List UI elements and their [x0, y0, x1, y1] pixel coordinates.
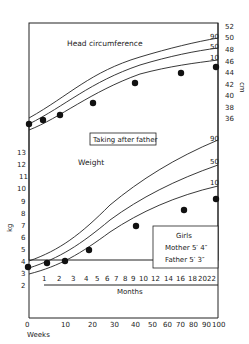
svg-text:40: 40: [131, 321, 140, 329]
head-centile-10: [29, 60, 218, 130]
weight-50-label: 50: [210, 158, 219, 166]
cm-ticks: 52 50 48 46 44 42 40 38 36: [225, 23, 234, 123]
svg-text:50: 50: [148, 321, 157, 329]
svg-text:10: 10: [17, 185, 26, 193]
svg-text:6: 6: [105, 275, 110, 283]
head-title: Head circumference: [67, 39, 143, 48]
svg-text:7: 7: [114, 275, 118, 283]
svg-text:12: 12: [151, 275, 160, 283]
svg-text:52: 52: [225, 23, 234, 31]
svg-text:90: 90: [202, 321, 211, 329]
svg-text:4: 4: [84, 275, 89, 283]
svg-text:8: 8: [21, 210, 25, 218]
svg-text:36: 36: [225, 115, 234, 123]
svg-text:1: 1: [42, 275, 46, 283]
legend-title: Girls: [176, 232, 192, 240]
svg-text:4: 4: [21, 258, 26, 266]
svg-text:50: 50: [225, 34, 234, 42]
weight-90-label: 90: [210, 135, 219, 143]
svg-text:38: 38: [225, 104, 234, 112]
head-centile-50: [29, 48, 218, 124]
svg-text:11: 11: [19, 173, 28, 181]
svg-text:9: 9: [21, 198, 25, 206]
week-ticks: 0 10 20 30 40 50 60 70 80 90 100: [25, 321, 225, 329]
svg-text:20: 20: [198, 275, 207, 283]
annotation-text: Taking after father: [92, 136, 158, 144]
svg-text:3: 3: [21, 270, 25, 278]
weight-10-label: 10: [210, 179, 219, 187]
head-centile-90: [29, 38, 218, 118]
svg-text:6: 6: [21, 234, 26, 242]
legend-father: Father 5′ 3″: [165, 256, 205, 264]
growth-chart: Head circumference 52 50 48 46 44 42 40 …: [0, 0, 249, 344]
svg-text:2: 2: [57, 275, 61, 283]
svg-text:14: 14: [164, 275, 173, 283]
head-90-label: 90: [210, 33, 219, 41]
svg-text:48: 48: [225, 46, 234, 54]
head-50-label: 50: [210, 43, 219, 51]
svg-text:12: 12: [17, 161, 26, 169]
weeks-label: Weeks: [27, 331, 50, 339]
weight-title: Weight: [78, 158, 104, 167]
cm-unit: cm: [238, 82, 246, 93]
svg-text:60: 60: [163, 321, 172, 329]
svg-text:40: 40: [225, 92, 234, 100]
svg-text:2: 2: [21, 282, 25, 290]
svg-text:13: 13: [17, 149, 26, 157]
svg-text:16: 16: [176, 275, 185, 283]
svg-text:8: 8: [123, 275, 127, 283]
svg-text:9: 9: [131, 275, 135, 283]
svg-text:44: 44: [225, 69, 234, 77]
svg-text:22: 22: [207, 275, 216, 283]
svg-text:5: 5: [21, 246, 25, 254]
svg-text:0: 0: [25, 321, 29, 329]
svg-text:42: 42: [225, 81, 234, 89]
svg-text:20: 20: [88, 321, 97, 329]
svg-text:10: 10: [61, 321, 70, 329]
svg-text:3: 3: [71, 275, 75, 283]
legend-mother: Mother 5′ 4″: [165, 244, 208, 252]
kg-unit: kg: [6, 224, 14, 233]
svg-text:10: 10: [139, 275, 148, 283]
svg-text:70: 70: [176, 321, 185, 329]
svg-text:18: 18: [188, 275, 197, 283]
svg-text:80: 80: [189, 321, 198, 329]
svg-text:30: 30: [110, 321, 119, 329]
svg-text:100: 100: [212, 321, 225, 329]
svg-text:46: 46: [225, 58, 234, 66]
head-10-label: 10: [210, 54, 219, 62]
svg-text:5: 5: [95, 275, 99, 283]
month-ticks: 1 2 3 4 5 6 7 8 9 10 12 14 16 18 20 22: [42, 275, 216, 283]
svg-text:7: 7: [21, 222, 25, 230]
months-label: Months: [117, 288, 143, 296]
